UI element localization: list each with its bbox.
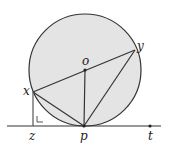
label-x: x: [23, 84, 30, 98]
geometry-diagram: o x y z p t: [0, 0, 173, 144]
point-t: [148, 124, 151, 127]
label-z: z: [28, 129, 36, 143]
right-angle-marker: [37, 116, 43, 122]
label-y: y: [136, 39, 144, 53]
label-p: p: [80, 129, 88, 143]
point-p: [82, 124, 85, 127]
point-o: [83, 68, 86, 71]
label-o: o: [82, 54, 89, 68]
label-t: t: [148, 129, 153, 143]
